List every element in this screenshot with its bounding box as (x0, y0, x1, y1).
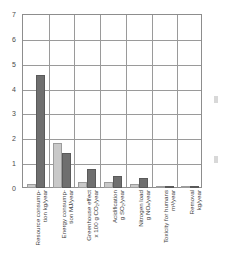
bar-group (176, 14, 202, 188)
y-tick-label: 6 (12, 35, 16, 42)
y-axis: 7 6 5 4 3 2 1 0 (0, 0, 20, 273)
bar-chart-figure: 7 6 5 4 3 2 1 0 Resource consump-tion kg… (0, 0, 236, 273)
bar (78, 182, 87, 188)
x-axis-label-line: tion MJ/year (67, 190, 74, 224)
bar-groups (22, 14, 202, 188)
margin-artifact (214, 156, 218, 163)
x-axis-label-line: m³/year (170, 190, 177, 211)
x-axis-label-line: kg/year (196, 190, 203, 210)
x-axis-label-line: x 100 g CO₂/year (93, 190, 100, 237)
bar (62, 153, 71, 188)
bar (113, 176, 122, 188)
bar (165, 186, 174, 188)
y-tick-label: 5 (12, 60, 16, 67)
bar-group (48, 14, 74, 188)
bar (130, 184, 139, 188)
bar-group (73, 14, 99, 188)
bar (87, 169, 96, 188)
x-axis-labels: Resource consump-tion kg/yearEnergy cons… (22, 190, 202, 273)
bar-group (99, 14, 125, 188)
bar (36, 75, 45, 188)
x-axis-label: Acidificationg SO₂/year (111, 190, 133, 270)
y-tick-label: 4 (12, 85, 16, 92)
y-tick-label: 0 (12, 185, 16, 192)
margin-artifact (214, 96, 218, 103)
x-axis-label-line: Energy consump- (60, 190, 67, 239)
bar (190, 186, 199, 188)
bar (181, 186, 190, 188)
bar (104, 182, 113, 188)
bar-group (22, 14, 48, 188)
y-tick-label: 1 (12, 160, 16, 167)
bar (27, 184, 36, 188)
y-tick-label: 7 (12, 11, 16, 18)
bar (53, 143, 62, 188)
x-axis-label: Toxicity for humansm³/year (162, 190, 184, 270)
x-axis-label: Removalkg/year (188, 190, 210, 270)
x-axis-label-line: tion kg/year (41, 190, 48, 222)
x-axis-label: Greenhouse effectx 100 g CO₂/year (85, 190, 107, 270)
y-tick-label: 3 (12, 110, 16, 117)
x-axis-label-line: g SO₂/year (118, 190, 125, 220)
x-axis-label: Nitrogen loadg NOₓ/year (137, 190, 159, 270)
x-axis-label-line: Resource consump- (34, 190, 41, 245)
x-axis-label-line: Nitrogen load (137, 190, 144, 227)
x-axis-label-line: g NOₓ/year (144, 190, 151, 220)
bar-group (125, 14, 151, 188)
y-tick-label: 2 (12, 135, 16, 142)
x-axis-label: Energy consump-tion MJ/year (60, 190, 82, 270)
x-axis-label-line: Acidification (111, 190, 118, 223)
bar (139, 178, 148, 188)
bar (156, 186, 165, 188)
x-axis-label: Resource consump-tion kg/year (34, 190, 56, 270)
bar-group (151, 14, 177, 188)
